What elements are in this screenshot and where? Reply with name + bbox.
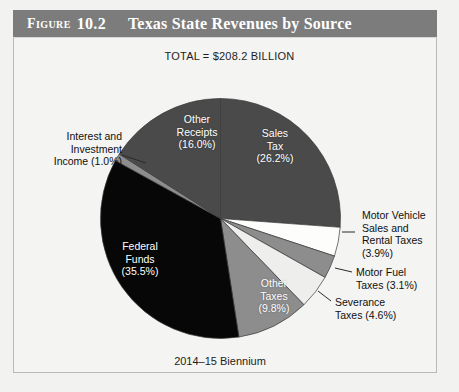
leader-line-motor-fuel [335,268,352,272]
slice-label-motor-fuel-taxes: Motor FuelTaxes (3.1%) [356,266,456,291]
leader-line-severance [318,291,331,301]
slice-label-federal-funds: FederalFunds(35.5%) [100,240,180,278]
figure-container: Figure 10.2 Texas State Revenues by Sour… [0,0,459,392]
slice-label-other-receipts: OtherReceipts(16.0%) [158,113,236,151]
slice-label-motor-vehicle-sales-and-rental-taxes: Motor VehicleSales andRental Taxes(3.9%) [362,209,458,259]
pie-chart [0,0,459,392]
slice-label-other-taxes: OtherTaxes(9.8%) [243,277,305,315]
slice-label-interest-and-investment-income: Interest andInvestmentIncome (1.0%) [18,130,122,168]
slice-label-severance-taxes: SeveranceTaxes (4.6%) [335,296,445,321]
figure-caption: 2014–15 Biennium [0,355,440,367]
slice-label-sales-tax: SalesTax(26.2%) [240,127,310,165]
